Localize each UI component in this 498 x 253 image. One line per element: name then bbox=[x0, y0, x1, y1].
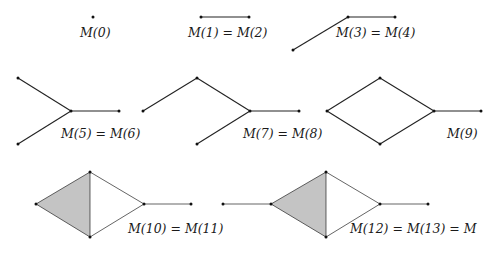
graph-vertex bbox=[325, 171, 328, 174]
graph-vertex bbox=[190, 203, 193, 206]
graph-vertex bbox=[248, 16, 251, 19]
graph-vertex bbox=[196, 77, 199, 80]
panel-label-m9: M(9) bbox=[447, 127, 478, 141]
graph-edge bbox=[18, 78, 71, 111]
graph-edge bbox=[380, 78, 434, 111]
graph-edge bbox=[327, 111, 380, 144]
graph-vertex bbox=[379, 143, 382, 146]
graph-edge bbox=[326, 172, 380, 204]
graph-edge bbox=[327, 78, 380, 111]
panel-label-m5: M(5) = M(6) bbox=[61, 127, 140, 141]
graph-vertex bbox=[249, 110, 252, 113]
graph-vertex bbox=[222, 203, 225, 206]
graph-vertex bbox=[118, 110, 121, 113]
graph-vertex bbox=[200, 16, 203, 19]
graph-vertex bbox=[292, 49, 295, 52]
graph-vertex bbox=[480, 110, 483, 113]
graph-vertex bbox=[35, 203, 38, 206]
panel-label-m10: M(10) = M(11) bbox=[128, 222, 223, 236]
graph-vertex bbox=[326, 110, 329, 113]
graph-vertex bbox=[433, 110, 436, 113]
graph-vertex bbox=[17, 143, 20, 146]
graph-edge bbox=[90, 172, 144, 204]
panel-label-m12: M(12) = M(13) = M bbox=[350, 222, 477, 236]
filled-triangle bbox=[36, 172, 90, 237]
graph-vertex bbox=[92, 16, 95, 19]
graph-edge bbox=[380, 111, 434, 144]
graph-vertex bbox=[270, 203, 273, 206]
graph-vertex bbox=[70, 110, 73, 113]
panel-label-m1: M(1) = M(2) bbox=[188, 26, 267, 40]
panel-label-m0: M(0) bbox=[80, 26, 111, 40]
graph-vertex bbox=[394, 16, 397, 19]
graph-vertex bbox=[347, 16, 350, 19]
graph-vertex bbox=[379, 203, 382, 206]
graph-vertex bbox=[379, 77, 382, 80]
graph-vertex bbox=[325, 236, 328, 239]
graph-vertex bbox=[143, 203, 146, 206]
graph-vertex bbox=[196, 143, 199, 146]
graph-vertex bbox=[89, 171, 92, 174]
graph-edge bbox=[197, 78, 250, 111]
graph-vertex bbox=[427, 203, 430, 206]
panel-label-m7: M(7) = M(8) bbox=[243, 127, 322, 141]
filled-triangle bbox=[271, 172, 326, 237]
graph-vertex bbox=[142, 110, 145, 113]
panel-label-m3: M(3) = M(4) bbox=[336, 26, 415, 40]
graph-vertex bbox=[17, 77, 20, 80]
graph-vertex bbox=[89, 236, 92, 239]
panel-m1 bbox=[200, 16, 251, 19]
graph-edge bbox=[143, 78, 197, 111]
panel-m0 bbox=[92, 16, 95, 19]
graph-vertex bbox=[298, 110, 301, 113]
